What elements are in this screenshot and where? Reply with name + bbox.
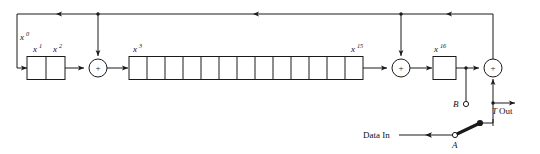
- terminal-b[interactable]: [463, 101, 468, 106]
- label-stage-x2-sup: 2: [59, 42, 62, 49]
- label-stage-x15: x: [350, 44, 355, 54]
- label-stage-x1: x: [32, 44, 37, 54]
- label-stage-x15-sup: 15: [357, 42, 363, 49]
- adder-1-symbol: +: [95, 63, 100, 73]
- junction-dot-adder2: [399, 12, 402, 15]
- lfsr-schematic-svg: + +: [0, 0, 540, 154]
- adder-1: +: [89, 59, 107, 77]
- labels-layer: x 0 x 1 x 2 x 3 x 15 x 16 B A Data In: [19, 30, 513, 150]
- label-stage-x16: x: [433, 44, 438, 54]
- label-stage-x1-sup: 1: [39, 42, 42, 49]
- lfsr-diagram: + +: [0, 0, 540, 154]
- label-stage-x16-sup: 16: [440, 42, 447, 49]
- label-stage-x3: x: [132, 44, 137, 54]
- junction-dot-adder1: [96, 12, 99, 15]
- register-group-last: [433, 57, 456, 80]
- label-t-out-prefix: T: [492, 106, 498, 116]
- adder-2: +: [392, 59, 410, 77]
- tap-x16-branch: [399, 12, 402, 56]
- register-group-middle: [129, 57, 363, 80]
- data-in-wire: [399, 132, 452, 138]
- label-tap-x0-sup: 0: [26, 30, 30, 37]
- label-t-out-suffix: Out: [499, 106, 513, 116]
- adder-2-symbol: +: [398, 63, 403, 73]
- adder-3: +: [484, 59, 502, 77]
- adder-3-symbol: +: [490, 63, 495, 73]
- register-group-first: [27, 57, 65, 80]
- tap-x3-branch: [96, 12, 99, 56]
- wire-x16-to-adder3: [456, 66, 479, 101]
- register-cell: [129, 57, 363, 80]
- feedback-bus-top: [17, 12, 493, 17]
- label-stage-x3-sup: 3: [138, 42, 142, 49]
- register-cell: [433, 57, 456, 80]
- label-terminal-b: B: [453, 99, 459, 109]
- switch-arm[interactable]: [458, 119, 493, 134]
- label-data-in: Data In: [363, 130, 390, 140]
- label-terminal-a: A: [451, 140, 458, 150]
- label-stage-x2: x: [52, 44, 57, 54]
- label-tap-x0: x: [19, 32, 24, 42]
